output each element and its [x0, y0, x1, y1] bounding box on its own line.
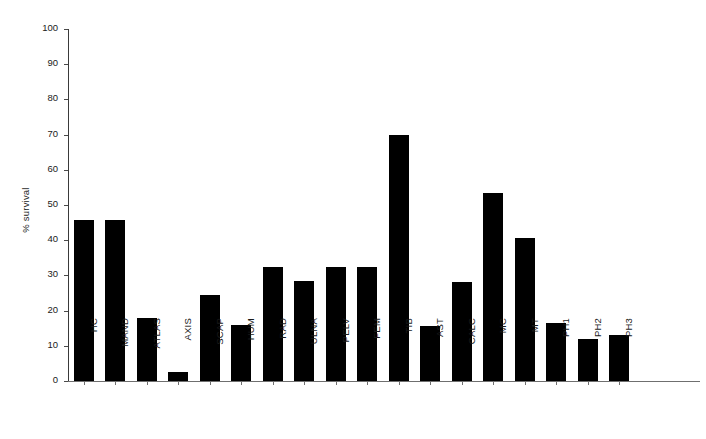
- x-axis-tick-label: MC: [497, 318, 509, 388]
- x-axis-tick-label: PH1: [560, 318, 572, 388]
- y-axis-tick-label: 30: [47, 268, 58, 279]
- x-axis-tick-mark: [556, 381, 557, 385]
- y-axis-tick-label: 20: [47, 304, 58, 315]
- x-axis-tick-mark: [336, 381, 337, 385]
- x-axis-tick-label: AST: [434, 318, 446, 388]
- y-axis-title: % survival: [20, 160, 36, 260]
- x-axis-tick-mark: [147, 381, 148, 385]
- x-axis-tick-label: MAND: [119, 318, 131, 388]
- x-axis-tick-mark: [304, 381, 305, 385]
- x-axis-tick-label: PELV: [340, 318, 352, 388]
- x-axis-tick-mark: [178, 381, 179, 385]
- y-axis-tick-label: 50: [47, 198, 58, 209]
- x-axis-tick-label: ULNA: [308, 318, 320, 388]
- x-axis-tick-label: HUM: [245, 318, 257, 388]
- x-axis-tick-mark: [115, 381, 116, 385]
- x-axis-tick-label: CALC: [466, 318, 478, 388]
- x-axis-tick-mark: [588, 381, 589, 385]
- x-axis-tick-mark: [430, 381, 431, 385]
- x-axis-tick-label: MT: [529, 318, 541, 388]
- y-axis-tick-label: 0: [53, 374, 58, 385]
- x-axis-tick-mark: [367, 381, 368, 385]
- x-axis-tick-label: RAD: [277, 318, 289, 388]
- y-axis-tick-label: 60: [47, 163, 58, 174]
- y-axis-tick-label: 100: [42, 22, 58, 33]
- x-axis-tick-mark: [84, 381, 85, 385]
- y-axis-tick-label: 70: [47, 128, 58, 139]
- x-axis-tick-label: ATLAS: [151, 318, 163, 388]
- x-axis-tick-mark: [493, 381, 494, 385]
- x-axis-tick-label: PH2: [592, 318, 604, 388]
- x-axis-tick-label: AXIS: [182, 318, 194, 388]
- x-axis-tick-mark: [241, 381, 242, 385]
- y-axis-tick-label: 90: [47, 57, 58, 68]
- x-axis-tick-mark: [210, 381, 211, 385]
- x-axis-tick-mark: [619, 381, 620, 385]
- x-axis-tick-label: PH3: [623, 318, 635, 388]
- x-axis-tick-label: TIB: [403, 318, 415, 388]
- y-axis-tick-label: 10: [47, 339, 58, 350]
- y-axis-tick-mark: [64, 381, 68, 382]
- x-axis-tick-label: FEM: [371, 318, 383, 388]
- x-axis-tick-label: SCAP: [214, 318, 226, 388]
- y-axis-tick-label: 40: [47, 233, 58, 244]
- x-axis-tick-mark: [399, 381, 400, 385]
- x-axis-tick-mark: [525, 381, 526, 385]
- y-axis-tick-label: 80: [47, 92, 58, 103]
- x-axis-tick-mark: [273, 381, 274, 385]
- x-axis-tick-label: HC: [88, 318, 100, 388]
- bar-chart-figure: % survival 0102030405060708090100 HCMAND…: [0, 0, 706, 439]
- x-axis-tick-mark: [462, 381, 463, 385]
